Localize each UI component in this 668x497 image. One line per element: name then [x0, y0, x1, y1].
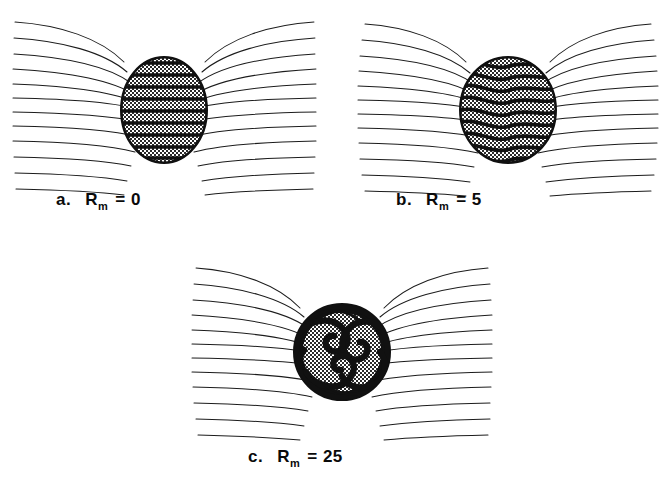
panel-a: [13, 22, 316, 195]
panel-b-symbol: R: [426, 190, 439, 210]
panel-a-value: = 0: [115, 190, 141, 210]
panel-c-letter: c.: [248, 447, 263, 467]
panel-c-subscript: m: [290, 457, 300, 469]
panel-c-value: = 25: [307, 447, 343, 467]
panel-a-label: a.Rm= 0: [56, 190, 141, 210]
panel-c-label: c.Rm= 25: [248, 447, 343, 467]
panel-c: [192, 268, 492, 440]
panel-a-letter: a.: [56, 190, 71, 210]
panel-b: [358, 24, 658, 196]
magnetic-field-figure: [0, 0, 668, 497]
panel-b-letter: b.: [396, 190, 412, 210]
panel-b-subscript: m: [439, 200, 449, 212]
panel-a-symbol: R: [85, 190, 98, 210]
panel-b-value: = 5: [456, 190, 482, 210]
panel-a-subscript: m: [98, 200, 108, 212]
panel-b-label: b.Rm= 5: [396, 190, 482, 210]
panel-c-symbol: R: [277, 447, 290, 467]
